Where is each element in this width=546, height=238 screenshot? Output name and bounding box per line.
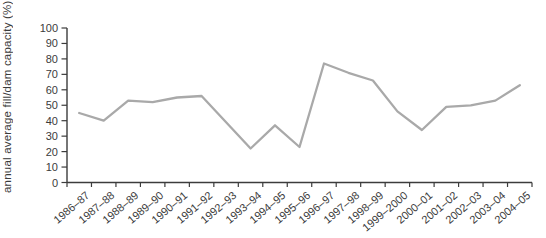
y-tick-label: 100 xyxy=(0,21,58,35)
y-tick-label: 60 xyxy=(0,83,58,97)
line-chart-figure: annual average fill/dam capacity (%) 010… xyxy=(0,0,546,238)
y-tick-label: 90 xyxy=(0,36,58,50)
y-tick-label: 50 xyxy=(0,98,58,112)
y-tick-label: 40 xyxy=(0,114,58,128)
y-tick-label: 70 xyxy=(0,67,58,81)
y-tick-label: 0 xyxy=(0,176,58,190)
y-tick-label: 80 xyxy=(0,52,58,66)
data-line xyxy=(79,64,520,149)
y-tick-label: 20 xyxy=(0,145,58,159)
y-tick-label: 30 xyxy=(0,129,58,143)
y-tick-label: 10 xyxy=(0,160,58,174)
